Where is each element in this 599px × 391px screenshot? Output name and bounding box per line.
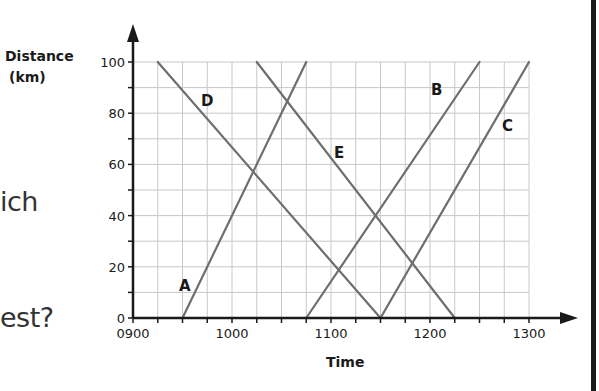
y-tick-label: 40: [108, 209, 125, 224]
x-tick-label: 1300: [512, 326, 545, 341]
y-tick-label: 0: [117, 311, 125, 326]
y-axis-title-line-1: Distance: [5, 48, 74, 64]
x-tick-label: 1200: [413, 326, 446, 341]
x-axis-title: Time: [326, 354, 364, 370]
x-tick-label: 1000: [215, 326, 248, 341]
x-tick-label: 1100: [314, 326, 347, 341]
axis-ticks: 09001000110012001300020406080100: [100, 55, 545, 341]
distance-time-chart: 09001000110012001300020406080100 ABCDE D…: [0, 0, 599, 391]
series-label-b: B: [431, 81, 442, 99]
series-label-d: D: [201, 92, 213, 110]
y-tick-label: 100: [100, 55, 125, 70]
x-axis-arrow-icon: [560, 312, 578, 324]
chart-axes: [127, 24, 578, 324]
y-tick-label: 20: [108, 260, 125, 275]
y-axis-arrow-icon: [127, 24, 139, 42]
series-label-a: A: [179, 277, 191, 295]
y-tick-label: 60: [108, 157, 125, 172]
y-axis-title-line-2: (km): [9, 69, 46, 85]
series-label-c: C: [502, 117, 513, 135]
y-tick-label: 80: [108, 106, 125, 121]
series-label-e: E: [334, 144, 344, 162]
x-tick-label: 0900: [116, 326, 149, 341]
